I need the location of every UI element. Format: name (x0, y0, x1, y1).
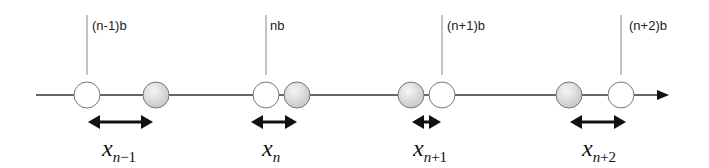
atom-displaced (398, 82, 424, 108)
double-arrow-icon (570, 115, 626, 129)
lattice-ticks (87, 15, 621, 75)
atom-reference (429, 82, 455, 108)
atom-displaced (556, 82, 582, 108)
displacement-label: xn (261, 135, 280, 165)
site-label: (n-1)b (92, 18, 127, 33)
double-arrow-icon (88, 115, 153, 129)
atom-reference (608, 82, 634, 108)
displacement-label: xn+1 (412, 135, 447, 165)
displacement-label: xn−1 (101, 135, 136, 165)
site-label: (n+1)b (447, 18, 485, 33)
atom-reference (253, 82, 279, 108)
displacement-label: xn+2 (581, 135, 616, 165)
atom-displaced (284, 82, 310, 108)
site-label: (n+2)b (629, 18, 667, 33)
lattice-diagram: (n-1)b nb (n+1)b (n+2)b (0, 0, 709, 168)
atom-reference (74, 82, 100, 108)
site-label: nb (270, 18, 284, 33)
displacement-arrows (88, 115, 626, 129)
atom-displaced (143, 82, 169, 108)
lattice-labels: (n-1)b nb (n+1)b (n+2)b (92, 18, 667, 33)
double-arrow-icon (251, 115, 297, 129)
axis-arrowhead-icon (657, 90, 669, 100)
displacement-labels: xn−1 xn xn+1 xn+2 (101, 135, 616, 165)
double-arrow-icon (412, 115, 441, 129)
